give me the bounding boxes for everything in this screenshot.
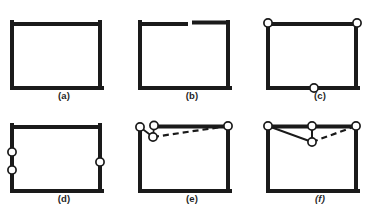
panel-b-label: (b) xyxy=(128,90,256,101)
panel-a-label: (a) xyxy=(0,90,128,101)
node-top-right xyxy=(353,19,361,27)
panel-a: (a) xyxy=(0,15,128,120)
rectangle-outline xyxy=(268,22,358,88)
panel-e-label: (e) xyxy=(128,193,256,204)
panel-d-label: (d) xyxy=(0,193,128,204)
panel-f: (f) xyxy=(256,118,384,223)
panel-b: (b) xyxy=(128,15,256,120)
panel-c: (c) xyxy=(256,15,384,120)
panel-e: (e) xyxy=(128,118,256,223)
rectangle-outline xyxy=(12,22,102,88)
panel-c-label: (c) xyxy=(256,90,384,101)
node-right-middle xyxy=(96,158,104,166)
node-top-left xyxy=(136,123,144,131)
panel-f-drawing xyxy=(256,118,384,198)
panel-d-drawing xyxy=(0,118,128,198)
node-dropped xyxy=(149,133,157,141)
node-top-middle xyxy=(308,122,316,130)
panel-a-drawing xyxy=(0,15,128,95)
node-top-right xyxy=(224,122,232,130)
panel-b-drawing xyxy=(128,15,256,95)
panel-c-drawing xyxy=(256,15,384,95)
node-top-right xyxy=(352,122,360,130)
node-top-inner xyxy=(150,121,158,129)
panel-e-drawing xyxy=(128,118,256,198)
rectangle-remaining-edges xyxy=(140,22,230,88)
node-left-lower xyxy=(8,166,16,174)
node-dropped xyxy=(308,138,316,146)
node-left-upper xyxy=(8,148,16,156)
rectangle-outline xyxy=(12,125,102,191)
node-top-left xyxy=(264,19,272,27)
figure-panel-grid: (a) (b) (c) (d) xyxy=(0,0,384,223)
panel-d: (d) xyxy=(0,118,128,223)
panel-f-label: (f) xyxy=(256,193,384,204)
node-top-left xyxy=(264,122,272,130)
